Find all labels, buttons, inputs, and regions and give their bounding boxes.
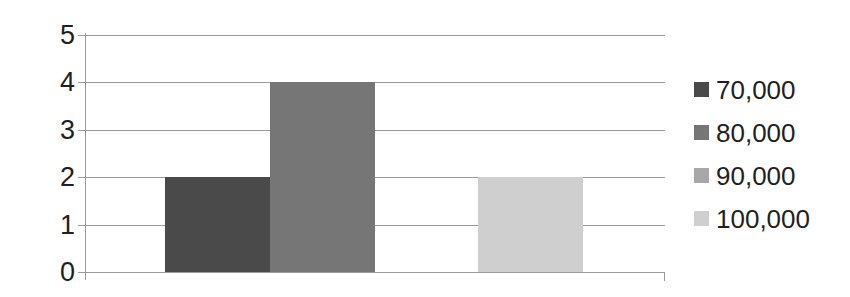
bar-80000 — [270, 82, 375, 272]
plot-area — [85, 35, 665, 272]
legend-swatch-70000 — [694, 82, 709, 97]
gridline-3 — [85, 130, 665, 131]
gridline-5 — [85, 35, 665, 36]
y-axis-tick-label-1: 1 — [35, 212, 75, 239]
bar-70000 — [165, 177, 270, 272]
y-axis-tick-labels: 5 4 3 2 1 0 — [20, 0, 75, 297]
legend-label-70000: 70,000 — [716, 77, 796, 103]
y-axis-tick-label-3: 3 — [35, 117, 75, 144]
legend-item-90000: 90,000 — [694, 154, 844, 197]
y-axis-tick-label-0: 0 — [35, 259, 75, 286]
legend-swatch-90000 — [694, 168, 709, 183]
legend-swatch-80000 — [694, 125, 709, 140]
legend-item-80000: 80,000 — [694, 111, 844, 154]
bar-chart: 5 4 3 2 1 0 70,000 80,000 — [0, 0, 850, 297]
legend-item-70000: 70,000 — [694, 68, 844, 111]
legend-label-80000: 80,000 — [716, 120, 796, 146]
legend-swatch-100000 — [694, 211, 709, 226]
legend-item-100000: 100,000 — [694, 197, 844, 240]
y-axis-tick-label-2: 2 — [35, 164, 75, 191]
legend-label-100000: 100,000 — [716, 206, 810, 232]
gridline-0-baseline — [85, 272, 665, 273]
x-axis-end-tick-mark — [664, 272, 665, 281]
y-axis-tick-label-4: 4 — [35, 69, 75, 96]
chart-legend: 70,000 80,000 90,000 100,000 — [694, 68, 844, 240]
legend-label-90000: 90,000 — [716, 163, 796, 189]
bar-100000 — [478, 177, 583, 272]
gridline-4 — [85, 82, 665, 83]
y-axis-tick-label-5: 5 — [35, 22, 75, 49]
